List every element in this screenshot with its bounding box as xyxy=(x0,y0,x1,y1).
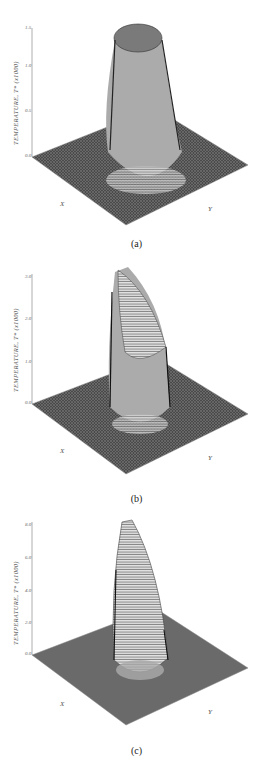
surface-plot-b xyxy=(0,252,273,510)
x-axis-label: X xyxy=(60,700,64,708)
surface-plot-a xyxy=(0,0,273,252)
z-tick: 1.5 xyxy=(25,25,31,30)
z-tick: 2.0 xyxy=(25,316,31,321)
z-tick: 6.0 xyxy=(25,555,31,560)
y-axis-label: Y xyxy=(208,205,212,213)
z-tick: 2.0 xyxy=(25,620,31,625)
surface-plot-c xyxy=(0,510,273,760)
panel-a: TEMPERATURE, T* (x1000) 0.0 0.5 1.0 1.5 … xyxy=(0,0,273,252)
z-tick: 1.0 xyxy=(25,63,31,68)
z-axis-label: TEMPERATURE, T* (x1000) xyxy=(12,308,19,392)
caption-b: (b) xyxy=(0,493,273,504)
caption-c: (c) xyxy=(0,745,273,756)
z-tick: 1.0 xyxy=(25,359,31,364)
z-tick: 0.0 xyxy=(25,153,31,158)
panel-c: TEMPERATURE, T* (x1000) 0.0 2.0 4.0 6.0 … xyxy=(0,510,273,760)
z-tick: 0.0 xyxy=(25,651,31,656)
z-tick: 8.0 xyxy=(25,522,31,527)
y-axis-label: Y xyxy=(208,708,212,716)
z-tick: 0.5 xyxy=(25,108,31,113)
y-axis-label: Y xyxy=(208,454,212,462)
z-axis-label: TEMPERATURE, T* (x1000) xyxy=(12,61,19,145)
x-axis-label: X xyxy=(60,447,64,455)
z-tick: 4.0 xyxy=(25,588,31,593)
panel-b: TEMPERATURE, T* (x1000) 0.0 1.0 2.0 3.0 … xyxy=(0,252,273,510)
caption-a: (a) xyxy=(0,238,273,249)
z-tick: 3.0 xyxy=(25,274,31,279)
z-tick: 0.0 xyxy=(25,400,31,405)
z-axis-label: TEMPERATURE, T* (x1000) xyxy=(12,561,19,645)
x-axis-label: X xyxy=(60,200,64,208)
